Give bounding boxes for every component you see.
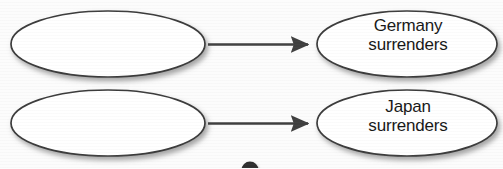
effect-ellipse-germany[interactable] <box>317 11 497 77</box>
diagram-canvas <box>0 0 503 168</box>
germany-row <box>11 11 497 77</box>
cause-ellipse-germany[interactable] <box>11 11 205 77</box>
cause-and-effect-diagram: Germany surrenders Japan surrenders <box>0 0 503 168</box>
page-marker-icon <box>242 162 259 169</box>
effect-ellipse-japan[interactable] <box>317 90 497 156</box>
japan-row <box>11 90 497 156</box>
cause-ellipse-japan[interactable] <box>11 90 205 156</box>
